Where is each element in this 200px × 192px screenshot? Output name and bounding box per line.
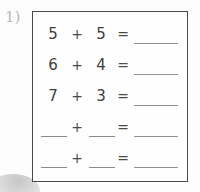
left-operand-blank[interactable]: [41, 117, 65, 137]
answer-rule-line: [134, 151, 178, 168]
equation-row: + =: [33, 142, 187, 173]
operand-rule-line: [41, 120, 67, 137]
equals-operator: =: [113, 86, 133, 106]
operand-rule-line: [89, 151, 115, 168]
answer-rule-line: [134, 89, 178, 106]
answer-rule-line: [134, 27, 178, 44]
answer-blank[interactable]: [133, 24, 179, 44]
operand-rule-line: [89, 120, 115, 137]
answer-blank[interactable]: [133, 55, 179, 75]
equation-list: 5 + 5 = 6 + 4 = 7 + 3 = + =: [33, 18, 187, 179]
left-operand-blank[interactable]: [41, 148, 65, 168]
equation-row: 5 + 5 =: [33, 18, 187, 49]
equals-operator: =: [113, 148, 133, 168]
operand-rule-line: [41, 151, 67, 168]
plus-operator: +: [65, 148, 89, 168]
right-operand-blank[interactable]: [89, 148, 113, 168]
plus-operator: +: [65, 117, 89, 137]
plus-operator: +: [65, 55, 89, 75]
item-number: 1): [5, 6, 29, 28]
left-operand: 6: [41, 55, 65, 75]
right-operand: 5: [89, 24, 113, 44]
left-operand: 7: [41, 86, 65, 106]
answer-rule-line: [134, 58, 178, 75]
right-operand: 3: [89, 86, 113, 106]
plus-operator: +: [65, 86, 89, 106]
answer-blank[interactable]: [133, 86, 179, 106]
problem-box: 5 + 5 = 6 + 4 = 7 + 3 = + =: [32, 11, 188, 182]
equals-operator: =: [113, 117, 133, 137]
answer-blank[interactable]: [133, 148, 179, 168]
equals-operator: =: [113, 55, 133, 75]
equation-row: 6 + 4 =: [33, 49, 187, 80]
answer-rule-line: [134, 120, 178, 137]
right-operand-blank[interactable]: [89, 117, 113, 137]
plus-operator: +: [65, 24, 89, 44]
equation-row: 7 + 3 =: [33, 80, 187, 111]
left-operand: 5: [41, 24, 65, 44]
answer-blank[interactable]: [133, 117, 179, 137]
equals-operator: =: [113, 24, 133, 44]
equation-row: + =: [33, 111, 187, 142]
right-operand: 4: [89, 55, 113, 75]
